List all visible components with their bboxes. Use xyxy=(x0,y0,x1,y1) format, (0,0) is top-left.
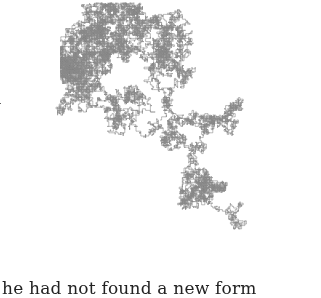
body-text-line: he had not found a new form xyxy=(2,278,257,298)
margin-text-fragment: l xyxy=(0,88,1,108)
